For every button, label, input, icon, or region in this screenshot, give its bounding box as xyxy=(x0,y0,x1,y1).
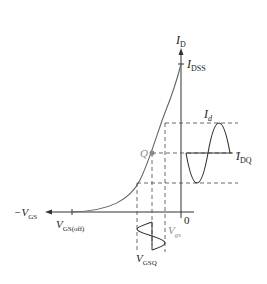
id-axis-arrow xyxy=(179,48,184,55)
diagram-svg: ID IDSS Id IDQ Q −VGS VGS(off) 0 Vgs VGS… xyxy=(0,0,267,284)
vgs-off-label: VGS(off) xyxy=(56,218,85,233)
vgs-axis-arrow xyxy=(45,210,52,215)
idq-label: IDQ xyxy=(235,149,252,165)
origin-label: 0 xyxy=(184,214,190,226)
q-point-label: Q xyxy=(140,147,148,159)
neg-vgs-label: −VGS xyxy=(14,206,37,221)
id-axis-label: ID xyxy=(175,33,186,49)
vgsq-label: VGSQ xyxy=(136,252,157,267)
q-point xyxy=(150,151,155,156)
vgs-signal-label: Vgs xyxy=(168,224,181,239)
jfet-transfer-diagram: ID IDSS Id IDQ Q −VGS VGS(off) 0 Vgs VGS… xyxy=(0,0,267,284)
id-signal-label: Id xyxy=(203,107,213,123)
idss-label: IDSS xyxy=(186,57,206,73)
vgs-signal-sine xyxy=(137,222,165,250)
